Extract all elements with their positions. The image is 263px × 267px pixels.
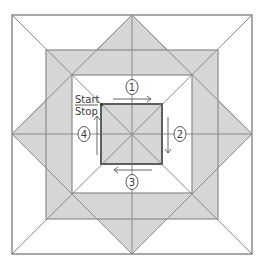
step-3-number: 3 xyxy=(129,177,135,188)
start-point-marker xyxy=(100,103,103,106)
step-2-number: 2 xyxy=(177,129,183,140)
step-4-number: 4 xyxy=(81,129,87,140)
step-1-number: 1 xyxy=(129,82,135,93)
log-cabin-diagram: Start Stop 1 2 3 4 xyxy=(0,0,263,267)
stop-label: Stop xyxy=(75,106,98,117)
start-label: Start xyxy=(75,94,100,105)
